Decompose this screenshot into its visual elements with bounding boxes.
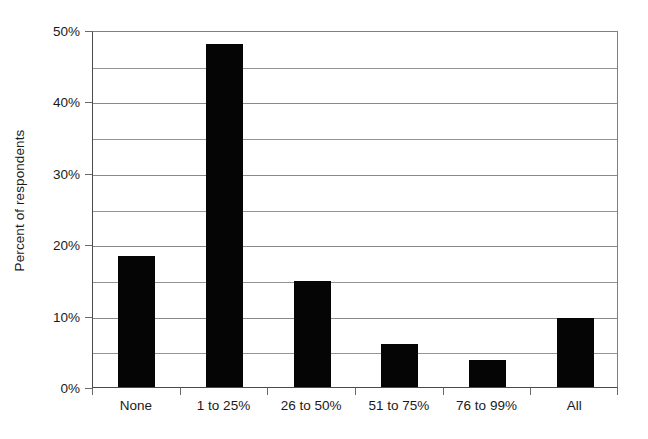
bar: [206, 44, 243, 387]
y-axis-ticks: [85, 31, 92, 388]
bar: [557, 318, 594, 387]
y-axis-tick-label: 20%: [53, 238, 80, 253]
x-axis-tick: [180, 388, 181, 395]
y-axis-tick: [85, 102, 92, 103]
y-axis-tick: [85, 31, 92, 32]
plot-area: [92, 31, 618, 388]
bar: [381, 344, 418, 387]
x-axis-tick-label: 1 to 25%: [197, 398, 250, 413]
x-axis-tick: [355, 388, 356, 395]
y-axis-tick: [85, 245, 92, 246]
y-axis-tick-label: 10%: [53, 309, 80, 324]
bar: [118, 256, 155, 387]
x-axis-tick: [267, 388, 268, 395]
y-axis-title-text: Percent of respondents: [13, 129, 28, 271]
y-axis-tick-label: 40%: [53, 95, 80, 110]
y-axis-tick-label: 50%: [53, 24, 80, 39]
bar: [469, 360, 506, 387]
x-axis-tick-label: 51 to 75%: [368, 398, 429, 413]
x-axis-ticks: [92, 388, 618, 395]
x-axis-tick-label: 76 to 99%: [456, 398, 517, 413]
x-axis-tick: [530, 388, 531, 395]
x-axis-tick: [617, 388, 618, 395]
y-axis-tick: [85, 317, 92, 318]
x-axis-tick-label: 26 to 50%: [281, 398, 342, 413]
y-axis-tick-labels: 0%10%20%30%40%50%: [38, 31, 86, 388]
y-axis-title: Percent of respondents: [0, 0, 40, 400]
x-axis-tick: [92, 388, 93, 395]
y-axis-tick: [85, 174, 92, 175]
x-axis-tick: [443, 388, 444, 395]
bar: [294, 281, 331, 387]
x-axis-tick-label: All: [567, 398, 582, 413]
y-axis-tick: [85, 388, 92, 389]
bars: [93, 32, 617, 387]
y-axis-tick-label: 30%: [53, 166, 80, 181]
y-axis-tick-label: 0%: [60, 381, 80, 396]
x-axis-tick-labels: None1 to 25%26 to 50%51 to 75%76 to 99%A…: [92, 398, 618, 422]
x-axis-tick-label: None: [120, 398, 152, 413]
bar-chart: Percent of respondents 0%10%20%30%40%50%…: [0, 0, 648, 439]
